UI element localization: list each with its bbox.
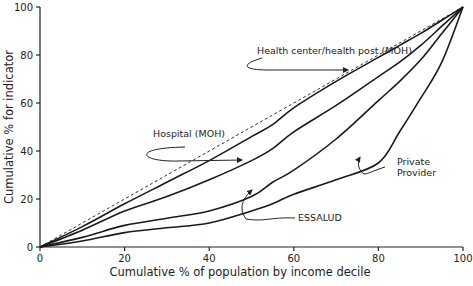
annotation-private-line2: Provider [397,167,436,178]
y-tick-label: 40 [20,146,33,157]
x-axis-title: Cumulative % of population by income dec… [109,265,370,279]
annotation-essalud: ESSALUD [298,212,342,223]
x-tick-label: 80 [372,253,385,264]
annotation-hospital: Hospital (MOH) [153,128,225,139]
chart-canvas: 020406080100020406080100 Cumulative % of… [0,0,473,286]
y-tick-label: 20 [20,194,33,205]
x-tick-label: 40 [203,253,216,264]
y-tick-label: 80 [20,50,33,61]
annotation-private-line1: Private [397,156,430,167]
curves [40,7,463,247]
y-tick-label: 100 [14,2,33,13]
lorenz-chart: 020406080100020406080100 Cumulative % of… [0,0,473,286]
arrow-health-center [247,58,348,70]
x-tick-label: 100 [453,253,472,264]
x-tick-label: 0 [37,253,43,264]
x-tick-label: 60 [287,253,300,264]
y-axis-title: Cumulative % for indicator [2,50,16,204]
y-tick-label: 60 [20,98,33,109]
y-tick-label: 0 [27,242,33,253]
x-tick-label: 20 [118,253,131,264]
annotation-health-center: Health center/health post (MOH) [257,45,412,56]
